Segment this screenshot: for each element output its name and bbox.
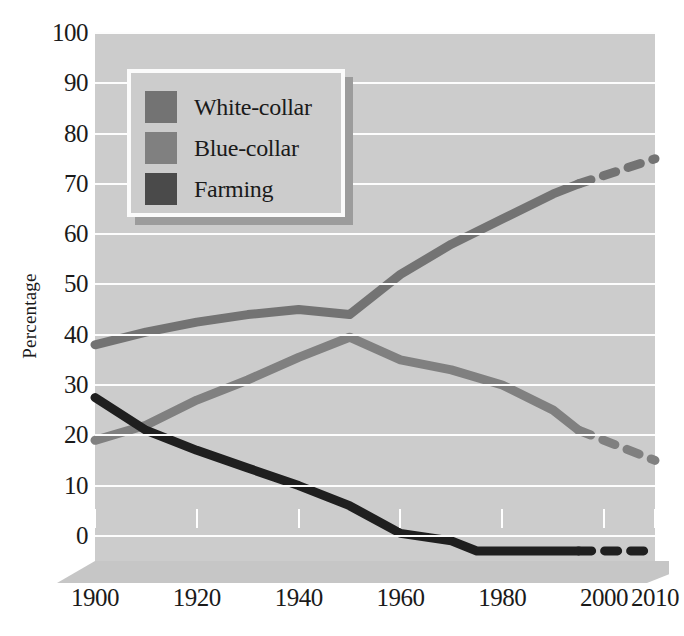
gridline: [95, 535, 655, 537]
legend-item[interactable]: White-collar: [145, 87, 312, 127]
x-tick-label: 2010: [610, 585, 684, 610]
legend-item-label: White-collar: [194, 95, 312, 119]
y-tick-label: 90: [32, 70, 88, 95]
gridline: [95, 434, 655, 436]
x-tick-label: 1940: [254, 585, 344, 610]
x-tick-label: 1920: [152, 585, 242, 610]
x-tick-mark: [399, 509, 401, 528]
legend-swatch-icon: [145, 132, 177, 164]
legend-box: White-collarBlue-collarFarming: [127, 69, 345, 217]
y-tick-label: 60: [32, 221, 88, 246]
gridline: [95, 32, 655, 34]
base-slab-shape: [57, 561, 669, 583]
y-tick-label: 0: [32, 523, 88, 548]
y-axis-tick-labels: 0102030405060708090100: [24, 0, 88, 636]
gridline: [95, 334, 655, 336]
legend-item-label: Farming: [194, 177, 273, 201]
legend-item[interactable]: Farming: [145, 169, 273, 209]
legend-item[interactable]: Blue-collar: [145, 128, 299, 168]
x-tick-mark: [94, 509, 96, 528]
y-tick-label: 10: [32, 473, 88, 498]
gridline: [95, 233, 655, 235]
gridline: [95, 283, 655, 285]
legend-swatch-icon: [145, 91, 177, 123]
x-tick-mark: [298, 509, 300, 528]
x-tick-mark: [603, 509, 605, 528]
legend-item-label: Blue-collar: [194, 136, 299, 160]
legend-swatch-icon: [145, 173, 177, 205]
axis-base-slab: [57, 561, 669, 583]
y-tick-label: 20: [32, 422, 88, 447]
y-tick-label: 100: [32, 20, 88, 45]
y-tick-label: 30: [32, 372, 88, 397]
x-tick-label: 1980: [457, 585, 547, 610]
series-projection-line: [579, 159, 655, 184]
x-tick-label: 1960: [355, 585, 445, 610]
gridline: [95, 485, 655, 487]
y-tick-label: 50: [32, 271, 88, 296]
series-line: [95, 398, 579, 551]
x-tick-mark: [196, 509, 198, 528]
y-tick-label: 70: [32, 171, 88, 196]
y-tick-label: 40: [32, 322, 88, 347]
x-tick-mark: [501, 509, 503, 528]
gridline: [95, 384, 655, 386]
x-tick-label: 1900: [50, 585, 140, 610]
x-tick-mark: [654, 509, 656, 528]
chart-legend: White-collarBlue-collarFarming: [127, 69, 345, 217]
series-line: [95, 337, 579, 440]
y-tick-label: 80: [32, 121, 88, 146]
